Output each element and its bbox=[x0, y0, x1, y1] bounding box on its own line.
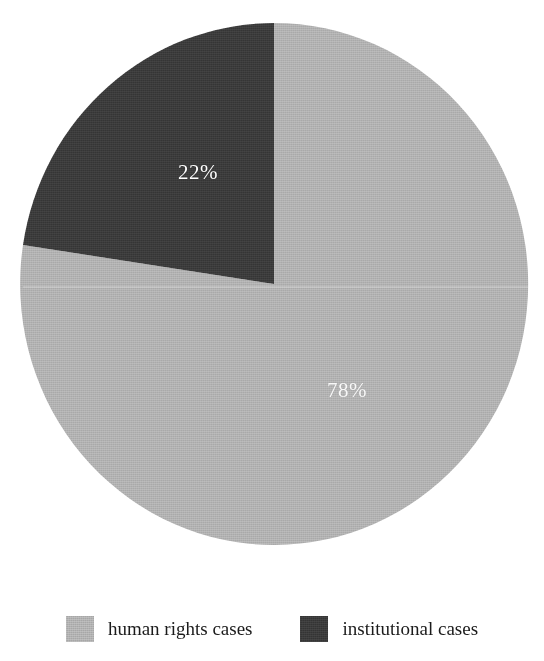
pie-chart-plot-area bbox=[0, 0, 544, 570]
slice-value-label-human-rights: 78% bbox=[327, 378, 367, 403]
legend-label-human-rights-cases: human rights cases bbox=[108, 618, 253, 640]
slice-value-label-institutional: 22% bbox=[178, 160, 218, 185]
legend-swatch-institutional-cases bbox=[300, 616, 328, 642]
pie-chart-figure: 22% 78% human rights cases institutional… bbox=[0, 0, 544, 661]
pie-chart-svg bbox=[0, 0, 544, 570]
legend-label-institutional-cases: institutional cases bbox=[342, 618, 478, 640]
chart-legend: human rights cases institutional cases bbox=[0, 606, 544, 652]
pie-slice-institutional-cases[interactable] bbox=[23, 23, 274, 284]
legend-swatch-human-rights-cases bbox=[66, 616, 94, 642]
legend-item-institutional-cases[interactable]: institutional cases bbox=[300, 616, 478, 642]
legend-item-human-rights-cases[interactable]: human rights cases bbox=[66, 616, 253, 642]
